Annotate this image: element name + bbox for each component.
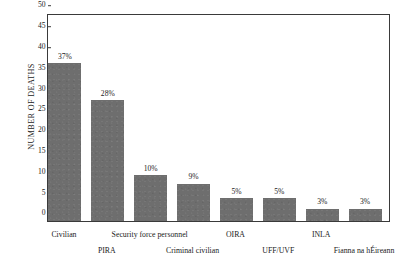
- y-axis-tick-label: 20: [38, 126, 48, 134]
- bar: 9%: [177, 184, 210, 221]
- bar-value-label: 3%: [317, 198, 327, 206]
- bar-value-label: 3%: [360, 198, 370, 206]
- bar: 10%: [134, 175, 167, 221]
- x-axis-label: UFF/UVF: [262, 247, 294, 255]
- y-axis-tick-label: 50: [38, 2, 48, 10]
- bar: 37%: [48, 63, 81, 221]
- plot-area: 05101520253035404550 37%28%10%9%5%5%3%3%: [47, 14, 390, 222]
- y-axis-tick: 10: [38, 168, 48, 176]
- y-axis-tick-label: 40: [38, 43, 48, 51]
- y-axis-tick: 40: [38, 43, 48, 51]
- bar-value-label: 37%: [58, 53, 72, 61]
- bar-value-label: 28%: [101, 90, 115, 98]
- y-axis-tick-label: 45: [38, 22, 48, 30]
- x-axis-label: PIRA: [98, 247, 116, 255]
- bar: 3%: [349, 209, 382, 221]
- x-axis-label: OIRA: [226, 231, 245, 239]
- bar-value-label: 5%: [231, 188, 241, 196]
- y-axis-tick-label: 25: [38, 106, 48, 114]
- y-axis-tick-label: 15: [38, 147, 48, 155]
- y-axis-tick-label: 30: [38, 85, 48, 93]
- x-axis-label: INLA: [312, 231, 331, 239]
- y-axis-tick: 25: [38, 106, 48, 114]
- y-axis-tick-label: 35: [38, 64, 48, 72]
- bar: 5%: [263, 198, 296, 221]
- bars-group: 37%28%10%9%5%5%3%3%: [48, 15, 389, 221]
- bar-value-label: 5%: [274, 188, 284, 196]
- y-axis-tick: 50: [38, 2, 48, 10]
- bar: 28%: [91, 100, 124, 221]
- y-axis-tick: 20: [38, 126, 48, 134]
- bar-value-label: 9%: [189, 173, 199, 181]
- y-axis-tick: 15: [38, 147, 48, 155]
- y-axis-tick-mark: [48, 5, 51, 6]
- bar-chart: NUMBER OF DEATHS 05101520253035404550 37…: [0, 0, 410, 265]
- x-axis-labels: CivilianPIRASecurity force personnelCrim…: [0, 222, 410, 265]
- y-axis-tick-label: 10: [38, 168, 48, 176]
- y-axis-tick: 30: [38, 85, 48, 93]
- y-axis-title: NUMBER OF DEATHS: [27, 27, 36, 187]
- x-axis-label: Fianna na hÉireann: [334, 247, 395, 255]
- x-axis-label: Criminal civilian: [166, 247, 219, 255]
- bar: 5%: [220, 198, 253, 221]
- x-axis-label: Security force personnel: [112, 231, 188, 239]
- x-axis-label: Civilian: [51, 231, 76, 239]
- bar-value-label: 10%: [144, 165, 158, 173]
- bar: 3%: [306, 209, 339, 221]
- y-axis-tick: 45: [38, 22, 48, 30]
- y-axis-tick: 35: [38, 64, 48, 72]
